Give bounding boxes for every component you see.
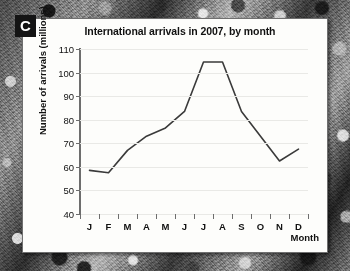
chart-title: International arrivals in 2007, by month (41, 25, 319, 37)
gridline (80, 49, 308, 50)
y-axis-tick (76, 167, 80, 168)
x-axis-tick (232, 214, 233, 219)
y-axis-tick (76, 96, 80, 97)
x-axis-title: Month (23, 232, 319, 243)
x-axis-tick (213, 214, 214, 219)
y-axis-tick-label: 60 (63, 161, 74, 172)
y-axis-tick (76, 120, 80, 121)
x-axis-tick (175, 214, 176, 219)
x-axis-tick (80, 214, 81, 219)
gridline (80, 73, 308, 74)
x-axis-tick-label: M (124, 221, 132, 232)
x-axis-tick-label: S (238, 221, 244, 232)
x-axis-tick (99, 214, 100, 219)
x-axis-tick-label: D (295, 221, 302, 232)
y-axis-tick-label: 40 (63, 209, 74, 220)
y-axis-tick-label: 50 (63, 185, 74, 196)
x-axis-tick-label: J (87, 221, 92, 232)
x-axis-tick (194, 214, 195, 219)
x-axis-tick-label: J (201, 221, 206, 232)
y-axis-tick (76, 73, 80, 74)
x-axis-tick (156, 214, 157, 219)
x-axis-tick-label: N (276, 221, 283, 232)
gridline (80, 167, 308, 168)
y-axis-tick (76, 49, 80, 50)
y-axis-tick-label: 110 (59, 44, 74, 55)
x-axis-tick-label: O (257, 221, 264, 232)
y-axis-title: Number of arrivals (millions) (37, 6, 48, 135)
x-axis-tick (251, 214, 252, 219)
gridline (80, 120, 308, 121)
y-axis-tick-label: 90 (63, 91, 74, 102)
y-axis-tick (76, 190, 80, 191)
y-axis-tick (76, 143, 80, 144)
y-axis-tick-label: 100 (58, 67, 74, 78)
x-axis-tick-label: J (182, 221, 187, 232)
x-axis-tick-label: M (162, 221, 170, 232)
chart-panel: C International arrivals in 2007, by mon… (22, 18, 328, 253)
panel-label-badge: C (15, 15, 36, 37)
x-axis-tick-label: A (219, 221, 226, 232)
x-axis-tick-label: F (106, 221, 112, 232)
x-axis-tick (137, 214, 138, 219)
x-axis-tick (118, 214, 119, 219)
y-axis-tick-label: 80 (63, 114, 74, 125)
data-line-series (80, 49, 308, 214)
x-axis-tick-label: A (143, 221, 150, 232)
gridline (80, 96, 308, 97)
gridline (80, 190, 308, 191)
x-axis-tick (308, 214, 309, 219)
x-axis-tick (289, 214, 290, 219)
gridline (80, 143, 308, 144)
plot-area: 405060708090100110JFMAMJJASOND (80, 49, 308, 214)
y-axis-tick-label: 70 (63, 138, 74, 149)
x-axis-tick (270, 214, 271, 219)
figure-root: C International arrivals in 2007, by mon… (0, 0, 350, 271)
